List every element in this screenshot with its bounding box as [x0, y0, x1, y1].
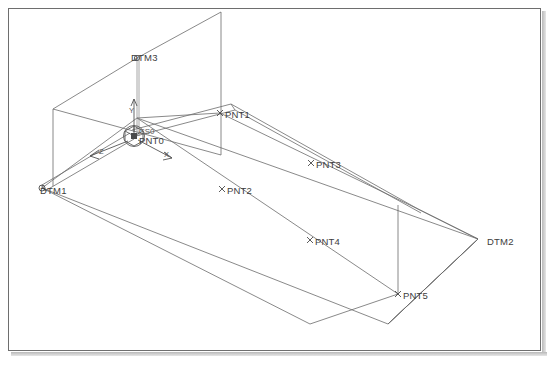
frame-shadow-right — [542, 11, 546, 355]
cad-viewport-window: DTM3 DTM1 DTM2 PNT0 PNT1 PNT2 PNT3 PNT4 … — [0, 0, 552, 365]
viewport-frame-border — [8, 8, 541, 351]
frame-shadow-bottom — [11, 352, 547, 356]
